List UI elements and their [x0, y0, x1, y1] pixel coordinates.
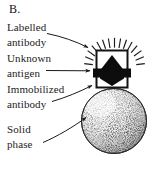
figure-panel-b: B. Labelled antibody Unknown antigen Imm…: [0, 0, 149, 171]
assay-schematic: [0, 0, 149, 171]
leader-labelled-antibody: [47, 34, 88, 48]
leader-immobilized-antibody: [52, 86, 92, 102]
solid-phase-bead: [81, 88, 149, 160]
bead-stipple-texture: [81, 88, 149, 160]
leader-solid-phase: [43, 118, 86, 143]
